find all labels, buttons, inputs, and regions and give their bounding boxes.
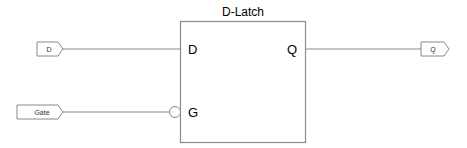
output-port-q-label: Q <box>430 46 436 54</box>
output-port-q[interactable]: Q <box>421 42 449 56</box>
input-port-d-label: D <box>46 46 51 53</box>
pin-q-label: Q <box>287 42 297 57</box>
d-latch-block[interactable] <box>181 22 306 143</box>
inversion-bubble-icon <box>170 107 181 118</box>
d-latch-diagram: D-Latch D D Gate G Q Q <box>0 0 467 148</box>
pin-g-label: G <box>188 105 198 120</box>
pin-d-label: D <box>188 42 197 57</box>
block-title: D-Latch <box>222 5 264 19</box>
input-port-gate-label: Gate <box>34 109 49 116</box>
input-port-gate[interactable]: Gate <box>17 105 63 119</box>
input-port-d[interactable]: D <box>37 42 63 56</box>
